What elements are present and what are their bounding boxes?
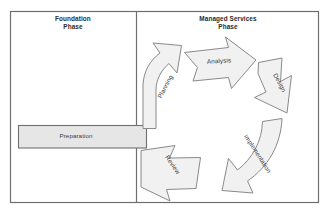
- foundation-phase-title: Foundation Phase: [14, 15, 132, 32]
- diagram-canvas: Foundation Phase Managed Services Phase …: [0, 0, 330, 218]
- preparation-label: Preparation: [18, 132, 134, 139]
- managed-services-phase-title: Managed Services Phase: [140, 15, 316, 32]
- diagram-graphics: [0, 0, 330, 218]
